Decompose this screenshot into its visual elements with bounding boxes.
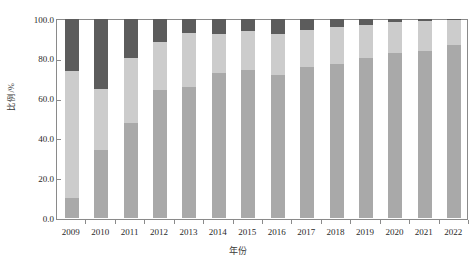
- bar-group[interactable]: [330, 19, 344, 218]
- x-axis-tick-label: 2013: [174, 227, 203, 237]
- bar-group[interactable]: [153, 19, 167, 218]
- bar-group[interactable]: [388, 19, 402, 218]
- bar-segment[interactable]: [300, 67, 314, 218]
- x-axis-tick-label: 2019: [350, 227, 379, 237]
- y-axis-tick-label: 20.0: [8, 175, 54, 184]
- bar-segment[interactable]: [65, 71, 79, 198]
- bar-group[interactable]: [212, 19, 226, 218]
- x-axis-tick-label: 2011: [115, 227, 144, 237]
- bar-segment[interactable]: [182, 19, 196, 33]
- y-axis-tick-label: 0.0: [8, 215, 54, 224]
- bar-segment[interactable]: [330, 27, 344, 64]
- bar-segment[interactable]: [330, 19, 344, 27]
- y-axis-tick-label: 40.0: [8, 135, 54, 144]
- bar-segment[interactable]: [359, 19, 373, 25]
- bar-segment[interactable]: [212, 19, 226, 34]
- x-axis-tick-mark: [439, 220, 440, 224]
- plot-inner: [57, 20, 467, 219]
- bar-segment[interactable]: [359, 58, 373, 218]
- bar-segment[interactable]: [359, 25, 373, 58]
- x-axis-tick-mark: [321, 220, 322, 224]
- bar-group[interactable]: [418, 19, 432, 218]
- bar-segment[interactable]: [65, 19, 79, 71]
- bar-group[interactable]: [124, 19, 138, 218]
- x-axis-tick-mark: [291, 220, 292, 224]
- bar-segment[interactable]: [418, 19, 432, 21]
- bar-group[interactable]: [447, 19, 461, 218]
- bar-segment[interactable]: [65, 198, 79, 218]
- x-axis-tick-mark: [409, 220, 410, 224]
- bar-segment[interactable]: [241, 19, 255, 31]
- bar-group[interactable]: [241, 19, 255, 218]
- x-axis-tick-label: 2010: [85, 227, 114, 237]
- x-axis-tick-label: 2017: [291, 227, 320, 237]
- bar-segment[interactable]: [124, 58, 138, 123]
- x-axis-tick-mark: [380, 220, 381, 224]
- bar-segment[interactable]: [212, 34, 226, 73]
- bar-segment[interactable]: [300, 19, 314, 30]
- bar-segment[interactable]: [418, 51, 432, 218]
- bar-segment[interactable]: [388, 53, 402, 218]
- y-axis-tick-label: 60.0: [8, 95, 54, 104]
- x-axis-tick-mark: [233, 220, 234, 224]
- bar-group[interactable]: [182, 19, 196, 218]
- x-axis-title: 年份: [0, 244, 476, 257]
- bar-segment[interactable]: [447, 45, 461, 218]
- bar-segment[interactable]: [124, 19, 138, 58]
- bar-segment[interactable]: [153, 42, 167, 90]
- x-axis-tick-label: 2015: [233, 227, 262, 237]
- x-axis-tick-label: 2012: [144, 227, 173, 237]
- bar-segment[interactable]: [182, 33, 196, 87]
- y-axis-tick-label: 100.0: [8, 16, 54, 25]
- y-axis-tick-mark: [57, 100, 61, 101]
- bar-segment[interactable]: [388, 19, 402, 22]
- x-axis-tick-mark: [85, 220, 86, 224]
- bar-segment[interactable]: [124, 123, 138, 218]
- x-axis-tick-mark: [144, 220, 145, 224]
- x-axis-tick-label: 2022: [439, 227, 468, 237]
- x-axis-tick-mark: [203, 220, 204, 224]
- y-axis-tick-mark: [57, 139, 61, 140]
- x-axis-tick-label: 2016: [262, 227, 291, 237]
- bar-segment[interactable]: [94, 150, 108, 218]
- bar-segment[interactable]: [271, 19, 285, 34]
- bar-segment[interactable]: [182, 87, 196, 218]
- bar-segment[interactable]: [418, 21, 432, 51]
- bar-segment[interactable]: [94, 89, 108, 150]
- bar-group[interactable]: [65, 19, 79, 218]
- x-axis-tick-mark: [468, 220, 469, 224]
- y-axis-tick-label: 80.0: [8, 55, 54, 64]
- plot-area: [56, 19, 468, 220]
- y-axis-tick-mark: [57, 60, 61, 61]
- x-axis-tick-mark: [115, 220, 116, 224]
- bar-segment[interactable]: [271, 75, 285, 218]
- x-axis-tick-label: 2009: [56, 227, 85, 237]
- x-axis-tick-label: 2021: [409, 227, 438, 237]
- bar-segment[interactable]: [300, 30, 314, 67]
- bar-segment[interactable]: [153, 90, 167, 218]
- bar-segment[interactable]: [241, 70, 255, 218]
- bar-segment[interactable]: [153, 19, 167, 42]
- x-axis-tick-mark: [174, 220, 175, 224]
- bar-segment[interactable]: [330, 64, 344, 218]
- stacked-bar-chart: 比例/% 0.020.040.060.080.0100.0 年份 2009201…: [0, 0, 476, 265]
- bar-segment[interactable]: [241, 31, 255, 70]
- chart-title: [0, 0, 476, 2]
- bar-segment[interactable]: [447, 19, 461, 20]
- bar-segment[interactable]: [447, 20, 461, 45]
- bar-group[interactable]: [271, 19, 285, 218]
- y-axis-tick-mark: [57, 179, 61, 180]
- bar-segment[interactable]: [94, 19, 108, 89]
- bar-segment[interactable]: [388, 22, 402, 53]
- bar-group[interactable]: [359, 19, 373, 218]
- x-axis-tick-label: 2020: [380, 227, 409, 237]
- x-axis-tick-mark: [350, 220, 351, 224]
- x-axis-tick-label: 2018: [321, 227, 350, 237]
- bar-group[interactable]: [94, 19, 108, 218]
- bar-segment[interactable]: [212, 73, 226, 218]
- bar-group[interactable]: [300, 19, 314, 218]
- x-axis-tick-label: 2014: [203, 227, 232, 237]
- x-axis-tick-mark: [262, 220, 263, 224]
- y-axis-tick-labels: 0.020.040.060.080.0100.0: [0, 19, 54, 220]
- bar-segment[interactable]: [271, 34, 285, 75]
